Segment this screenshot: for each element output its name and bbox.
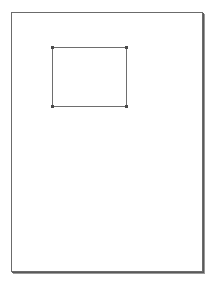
selection-rectangle[interactable] xyxy=(52,47,127,107)
resize-handle-bottom-right[interactable] xyxy=(125,105,128,108)
resize-handle-top-right[interactable] xyxy=(125,46,128,49)
resize-handle-bottom-left[interactable] xyxy=(51,105,54,108)
resize-handle-top-left[interactable] xyxy=(51,46,54,49)
